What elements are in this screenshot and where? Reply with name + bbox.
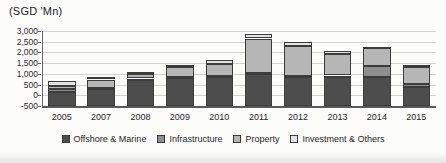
bar-segment-2014-investment-others — [363, 47, 391, 49]
legend-swatch-offshore-marine-icon — [62, 135, 70, 143]
bar-segment-2010-offshore-marine — [206, 77, 234, 106]
y-axis-label-1500: 1,500 — [8, 59, 38, 67]
bar-segment-2012-investment-others — [284, 42, 312, 46]
bar-segment-2007-offshore-marine — [87, 89, 115, 106]
legend-item-property: Property — [233, 134, 279, 144]
bar-segment-2007-property — [87, 80, 115, 89]
chart-title: (SGD 'Mn) — [9, 5, 62, 17]
bar-segment-2011-infrastructure — [245, 73, 273, 75]
stacked-bar-chart: (SGD 'Mn) -50005001,0001,5002,0002,5003,… — [0, 0, 446, 163]
bar-segment-2005-offshore-marine — [48, 92, 76, 106]
bar-segment-2010-investment-others — [206, 60, 234, 64]
bar-segment-2011-offshore-marine — [245, 73, 273, 106]
bar-segment-2007-infrastructure — [87, 88, 115, 90]
bar-segment-2013-property — [324, 54, 352, 75]
y-axis-tick--500 — [38, 106, 41, 107]
legend-swatch-investment-others-icon — [290, 135, 298, 143]
x-axis-label-2005: 2005 — [42, 112, 81, 122]
x-axis-label-2007: 2007 — [81, 112, 120, 122]
legend-label-offshore-marine: Offshore & Marine — [74, 134, 147, 144]
bar-segment-2012-property — [284, 46, 312, 76]
bar-segment-2013-offshore-marine — [324, 77, 352, 106]
x-axis-label-2012: 2012 — [278, 112, 317, 122]
y-axis-label-1000: 1,000 — [8, 70, 38, 78]
bar-segment-2005-infrastructure — [48, 89, 76, 92]
legend-item-investment-others: Investment & Others — [290, 134, 384, 144]
bar-segment-2015-infrastructure — [403, 84, 431, 87]
bar-segment-2012-offshore-marine — [284, 77, 312, 106]
bar-segment-2005-property — [48, 86, 76, 89]
bar-segment-2011-property — [245, 39, 273, 73]
y-axis-label-500: 500 — [8, 81, 38, 89]
bar-segment-2011-investment-others — [245, 34, 273, 38]
bar-segment-2009-infrastructure — [166, 77, 194, 79]
legend-swatch-infrastructure-icon — [157, 135, 165, 143]
y-axis-tick-1500 — [38, 63, 41, 64]
legend-item-offshore-marine: Offshore & Marine — [62, 134, 147, 144]
gridline-2500 — [42, 42, 436, 43]
bar-segment-2012-infrastructure — [284, 76, 312, 78]
bar-segment-2009-property — [166, 67, 194, 77]
bar-segment-2007-investment-others — [87, 77, 115, 79]
y-axis-label-2000: 2,000 — [8, 48, 38, 56]
legend-swatch-property-icon — [233, 135, 241, 143]
bar-segment-2014-infrastructure — [363, 66, 391, 77]
legend-item-infrastructure: Infrastructure — [157, 134, 222, 144]
y-axis-label-3000: 3,000 — [8, 27, 38, 35]
x-axis-label-2011: 2011 — [239, 112, 278, 122]
legend-label-infrastructure: Infrastructure — [169, 134, 222, 144]
bar-segment-2005-investment-others — [48, 81, 76, 85]
legend: Offshore & MarineInfrastructurePropertyI… — [0, 134, 446, 144]
bar-segment-2010-property — [206, 64, 234, 77]
bar-segment-2013-investment-others — [324, 51, 352, 55]
legend-label-property: Property — [245, 134, 279, 144]
bar-segment-2008-offshore-marine — [127, 79, 155, 106]
x-axis-label-2014: 2014 — [357, 112, 396, 122]
bar-segment-2008-investment-others — [127, 72, 155, 74]
bar-segment-2015-investment-others — [403, 65, 431, 67]
bar-segment-2014-property — [363, 48, 391, 66]
bar-segment-2009-investment-others — [166, 65, 194, 67]
y-axis-line — [42, 31, 43, 107]
y-axis-tick-500 — [38, 85, 41, 86]
x-axis-label-2015: 2015 — [397, 112, 436, 122]
x-axis-label-2013: 2013 — [318, 112, 357, 122]
bar-segment-2009-offshore-marine — [166, 78, 194, 106]
x-axis-label-2010: 2010 — [200, 112, 239, 122]
x-axis-label-2009: 2009 — [160, 112, 199, 122]
gridline-3000 — [42, 31, 436, 32]
x-axis-label-2008: 2008 — [121, 112, 160, 122]
y-axis-tick-0 — [38, 95, 41, 96]
x-axis-baseline — [42, 106, 436, 108]
y-axis-tick-2000 — [38, 52, 41, 53]
y-axis-tick-2500 — [38, 42, 41, 43]
bar-segment-2013-infrastructure — [324, 76, 352, 78]
y-axis-label-2500: 2,500 — [8, 38, 38, 46]
y-axis-tick-3000 — [38, 31, 41, 32]
legend-label-investment-others: Investment & Others — [302, 134, 384, 144]
bar-segment-2010-infrastructure — [206, 76, 234, 78]
bar-segment-2008-property — [127, 74, 155, 78]
scan-shadow — [0, 153, 446, 163]
y-axis-label-0: 0 — [8, 91, 38, 99]
y-axis-label--500: -500 — [8, 102, 38, 110]
bar-segment-2014-offshore-marine — [363, 77, 391, 106]
bar-segment-2015-property — [403, 67, 431, 84]
bar-segment-2015-offshore-marine — [403, 87, 431, 106]
y-axis-tick-1000 — [38, 74, 41, 75]
bar-segment-2008-infrastructure — [127, 79, 155, 81]
